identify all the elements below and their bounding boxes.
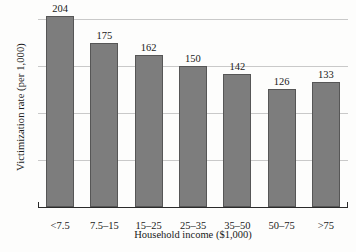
bar-slot: 142: [215, 10, 259, 207]
bar[interactable]: [46, 16, 74, 207]
bar-slot: 204: [38, 10, 82, 207]
bar-slot: 126: [259, 10, 303, 207]
bar[interactable]: [268, 89, 296, 207]
x-axis-title: Household income ($1,000): [38, 229, 348, 240]
bar[interactable]: [135, 55, 163, 207]
bar-value-label: 162: [141, 42, 157, 53]
bar[interactable]: [312, 82, 340, 207]
bar-chart-figure: Victimization rate (per 1,000) 204175162…: [0, 0, 356, 252]
bar-value-label: 150: [185, 53, 201, 64]
bar-slot: 150: [171, 10, 215, 207]
x-axis-right-cap: [347, 202, 348, 208]
bar[interactable]: [179, 66, 207, 207]
bar-value-label: 204: [52, 3, 68, 14]
bar-slot: 162: [127, 10, 171, 207]
bar-slot: 133: [304, 10, 348, 207]
bar[interactable]: [223, 74, 251, 207]
bar-value-label: 142: [229, 61, 245, 72]
x-axis-left-cap: [38, 202, 39, 208]
bar[interactable]: [90, 43, 118, 207]
x-axis-line: [38, 207, 348, 208]
bar-slot: 175: [82, 10, 126, 207]
bar-series: 204175162150142126133: [38, 10, 348, 207]
bar-value-label: 175: [97, 30, 113, 41]
plot-area: 204175162150142126133 <7.57.5–1515–2525–…: [38, 10, 348, 208]
bar-value-label: 133: [318, 69, 334, 80]
y-axis-title: Victimization rate (per 1,000): [14, 9, 28, 205]
bar-value-label: 126: [274, 76, 290, 87]
